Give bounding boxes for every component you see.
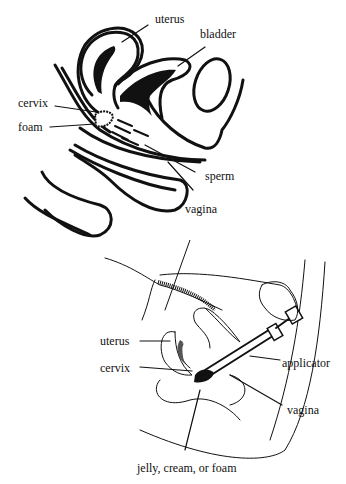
- label-bladder: bladder: [200, 28, 236, 40]
- label-sperm: sperm: [205, 170, 234, 182]
- label-cervix-applicator: cervix: [100, 362, 130, 374]
- label-foam: foam: [18, 121, 43, 133]
- diagram-applicator-insertion: uterus cervix applicator vagina jelly, c…: [0, 240, 346, 484]
- label-uterus-applicator: uterus: [100, 335, 129, 347]
- anatomy-cross-section-drawing: [0, 0, 346, 240]
- diagram-foam-in-vagina: uterus bladder cervix foam sperm vagina: [0, 0, 346, 240]
- label-jelly-cream-foam: jelly, cream, or foam: [137, 462, 237, 474]
- label-applicator: applicator: [282, 357, 330, 369]
- label-cervix: cervix: [18, 97, 48, 109]
- label-vagina: vagina: [185, 203, 217, 215]
- label-uterus: uterus: [155, 13, 184, 25]
- label-vagina-applicator: vagina: [287, 404, 319, 416]
